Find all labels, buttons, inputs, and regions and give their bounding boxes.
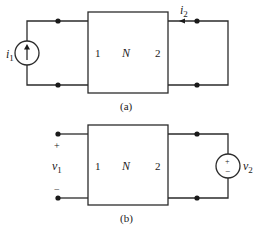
current-source-icon — [15, 41, 39, 65]
label-v2: v2 — [243, 159, 253, 175]
wire-a-top-left — [27, 21, 88, 41]
wire-b-top-right — [168, 134, 228, 154]
terminal-a1-bottom — [55, 82, 60, 87]
port2-label-a: 2 — [155, 47, 161, 59]
wire-a-bottom-left — [27, 65, 88, 85]
network-label-a: N — [121, 46, 131, 60]
terminal-a2-bottom — [194, 82, 199, 87]
wire-b-bottom-right — [168, 178, 228, 198]
arrow-left-icon — [179, 19, 185, 24]
port1-label-a: 1 — [95, 47, 101, 59]
voltage-source-icon: + − — [216, 154, 240, 178]
v1-minus-sign: − — [54, 184, 60, 195]
two-port-circuit-diagram: i1 i2 1 N 2 (a) + − + − v1 v2 1 N 2 (b) — [0, 0, 258, 228]
port2-label-b: 2 — [155, 160, 161, 172]
port1-label-b: 1 — [95, 160, 101, 172]
label-i1: i1 — [6, 47, 14, 63]
figure-a: i1 i2 1 N 2 (a) — [6, 3, 228, 113]
svg-text:+: + — [225, 157, 230, 166]
caption-a: (a) — [120, 100, 133, 113]
caption-b: (b) — [120, 212, 133, 225]
v1-plus-sign: + — [54, 140, 60, 151]
terminal-b1-top — [55, 131, 60, 136]
terminal-b2-top — [194, 131, 199, 136]
terminal-a2-top — [194, 18, 199, 23]
network-label-b: N — [121, 159, 131, 173]
arrow-up-icon — [24, 44, 30, 50]
terminal-a1-top — [55, 18, 60, 23]
svg-text:−: − — [225, 166, 230, 176]
terminal-b1-bottom — [55, 195, 60, 200]
label-v1: v1 — [52, 159, 62, 175]
terminal-b2-bottom — [194, 195, 199, 200]
wire-a-short — [168, 21, 228, 85]
label-i2: i2 — [180, 3, 188, 19]
figure-b: + − + − v1 v2 1 N 2 (b) — [52, 125, 253, 225]
